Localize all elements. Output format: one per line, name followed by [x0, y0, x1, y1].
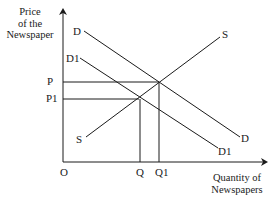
demand-d-end-label: D: [241, 133, 249, 144]
supply-s-top-label: S: [222, 29, 228, 40]
supply-s-bottom-label: S: [76, 134, 82, 145]
price-p-label: P: [47, 76, 53, 87]
demand-d1-label: D1: [66, 53, 79, 64]
quantity-q-label: Q: [136, 167, 144, 178]
origin-label: O: [60, 167, 68, 178]
price-p1-label: P1: [46, 93, 58, 104]
demand-curve-d1: [80, 58, 218, 148]
demand-d-label: D: [73, 26, 81, 37]
supply-curve-s: [86, 37, 220, 137]
demand-d1-end-label: D1: [218, 146, 231, 157]
quantity-q1-label: Q1: [155, 167, 168, 178]
